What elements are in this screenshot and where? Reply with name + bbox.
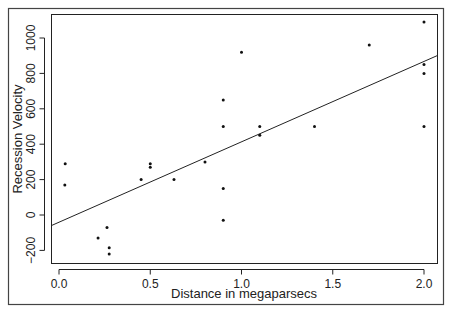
- data-point: [63, 183, 66, 186]
- data-point: [313, 125, 316, 128]
- y-tick-label: 0: [24, 211, 38, 218]
- y-tick-label: 1000: [24, 24, 38, 51]
- data-points: [63, 21, 425, 256]
- y-axis-title: Recession Velocity: [10, 84, 25, 194]
- data-point: [258, 134, 261, 137]
- x-tick-label: 0.5: [142, 277, 159, 291]
- data-point: [423, 125, 426, 128]
- y-tick-label: 600: [24, 98, 38, 118]
- data-point: [423, 72, 426, 75]
- y-tick-label: 800: [24, 63, 38, 83]
- data-point: [222, 187, 225, 190]
- data-point: [368, 44, 371, 47]
- y-tick-label: 400: [24, 134, 38, 154]
- data-point: [108, 252, 111, 255]
- data-point: [105, 226, 108, 229]
- data-point: [222, 125, 225, 128]
- y-tick-label: 200: [24, 169, 38, 189]
- data-point: [64, 162, 67, 165]
- x-tick-label: 0.0: [51, 277, 68, 291]
- y-axis: −20002004006008001000: [24, 24, 45, 264]
- x-axis-title: Distance in megaparsecs: [171, 286, 317, 301]
- data-point: [222, 98, 225, 101]
- regression-line: [52, 55, 438, 225]
- data-point: [258, 125, 261, 128]
- x-tick-label: 1.5: [324, 277, 341, 291]
- data-point: [240, 51, 243, 54]
- x-tick-label: 2.0: [416, 277, 433, 291]
- data-point: [97, 237, 100, 240]
- data-point: [108, 246, 111, 249]
- data-point: [423, 21, 426, 24]
- data-point: [149, 166, 152, 169]
- data-point: [222, 219, 225, 222]
- data-point: [204, 160, 207, 163]
- plot-area: [52, 15, 438, 264]
- data-point: [149, 162, 152, 165]
- data-point: [172, 178, 175, 181]
- data-point: [140, 178, 143, 181]
- y-tick-label: −200: [24, 237, 38, 264]
- data-point: [423, 63, 426, 66]
- scatter-chart: −20002004006008001000 0.00.51.01.52.0 Di…: [0, 0, 451, 312]
- outer-frame: [9, 9, 444, 305]
